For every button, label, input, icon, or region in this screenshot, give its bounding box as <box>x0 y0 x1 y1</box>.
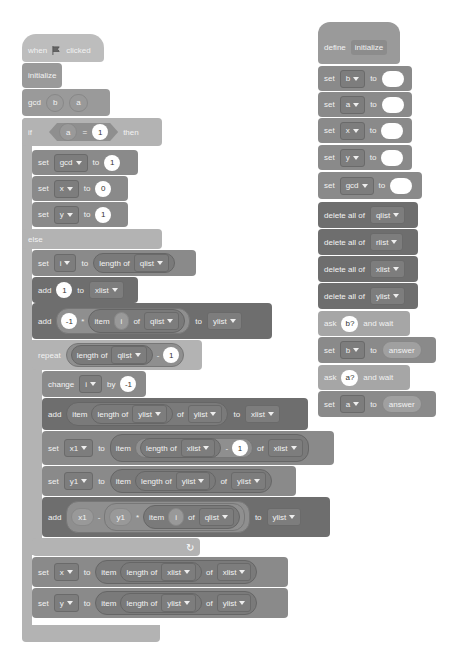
value-input[interactable] <box>382 71 404 87</box>
gcd-call-block[interactable]: gcd b a <box>22 89 110 116</box>
value-input[interactable] <box>381 123 403 139</box>
answer-reporter[interactable]: answer <box>382 341 422 359</box>
set-x-item-block[interactable]: set x to item length of xlist of xlist <box>32 557 288 587</box>
if-block[interactable]: if a = 1 then <box>22 118 162 146</box>
if-else-bottom <box>22 625 160 642</box>
define-name: initialize <box>351 40 387 55</box>
ask-a-block[interactable]: ask a? and wait <box>318 365 410 390</box>
set-y1-block[interactable]: set y1 to item length of ylist of ylist <box>42 466 296 496</box>
define-initialize-block[interactable]: define initialize <box>318 22 400 64</box>
set-y-empty-block[interactable]: set y to <box>318 145 412 170</box>
else-label: else <box>22 229 162 249</box>
when-flag-clicked-block[interactable]: when clicked <box>22 34 104 62</box>
var-dropdown[interactable]: x <box>54 180 79 198</box>
gcd-arg-a[interactable]: a <box>69 94 87 112</box>
set-i-block[interactable]: set i to length of qlist <box>32 250 196 276</box>
delete-all-qlist-block[interactable]: delete all of qlist <box>318 202 418 228</box>
add-calc-to-ylist-block[interactable]: add x1 - y1 * item i of qlist to ylist <box>42 497 330 537</box>
set-x1-block[interactable]: set x1 to item length of xlist - 1 of xl… <box>42 431 334 465</box>
set-b-answer-block[interactable]: set b to answer <box>318 337 436 363</box>
loop-arrow-icon: ↻ <box>186 542 194 553</box>
repeat-arm <box>32 340 42 555</box>
set-x-empty-block[interactable]: set x to <box>318 118 412 143</box>
repeat-bottom: ↻ <box>32 538 200 556</box>
subtract-operator[interactable]: length of qlist - 1 <box>66 343 185 367</box>
delete-all-xlist-block[interactable]: delete all of xlist <box>318 256 418 282</box>
equals-operator[interactable]: a = 1 <box>49 123 118 141</box>
answer-reporter[interactable]: answer <box>382 395 422 413</box>
initialize-call-block[interactable]: initialize <box>22 63 62 88</box>
ask-b-block[interactable]: ask b? and wait <box>318 311 410 336</box>
add-item-to-xlist-block[interactable]: add item length of ylist of ylist to xli… <box>42 398 308 430</box>
set-b-empty-block[interactable]: set b to <box>318 66 412 91</box>
length-of-reporter[interactable]: length of qlist <box>93 253 175 273</box>
if-else-arm <box>22 118 32 640</box>
repeat-block[interactable]: repeat length of qlist - 1 <box>32 340 202 370</box>
set-a-answer-block[interactable]: set a to answer <box>318 391 436 417</box>
green-flag-icon <box>52 46 61 55</box>
set-gcd-block[interactable]: set gcd to 1 <box>32 150 138 175</box>
set-x-block[interactable]: set x to 0 <box>32 176 128 201</box>
multiply-operator[interactable]: -1 * item i of qlist <box>56 308 190 334</box>
multiply-operator[interactable]: y1 * item i of qlist <box>104 503 244 531</box>
delete-all-rlist-block[interactable]: delete all of rlist <box>318 229 418 255</box>
change-i-block[interactable]: change i by -1 <box>42 371 146 397</box>
set-a-empty-block[interactable]: set a to <box>318 92 412 117</box>
set-y-block[interactable]: set y to 1 <box>32 202 128 227</box>
delete-all-ylist-block[interactable]: delete all of ylist <box>318 283 418 309</box>
add-1-to-xlist-block[interactable]: add 1 to xlist <box>32 277 138 303</box>
var-dropdown[interactable]: gcd <box>54 154 88 172</box>
set-y-item-block[interactable]: set y to item length of ylist of ylist <box>32 588 288 618</box>
value-input[interactable] <box>381 150 403 166</box>
set-gcd-empty-block[interactable]: set gcd to <box>318 172 422 199</box>
add-neg-item-block[interactable]: add -1 * item i of qlist to ylist <box>32 303 272 339</box>
var-dropdown[interactable]: y <box>54 206 79 224</box>
value-input[interactable] <box>382 97 404 113</box>
subtract-operator[interactable]: x1 - y1 * item i of qlist <box>66 501 250 533</box>
item-reporter[interactable]: item i of qlist <box>88 309 185 333</box>
value-input[interactable] <box>390 178 412 194</box>
gcd-arg-b[interactable]: b <box>46 94 64 112</box>
